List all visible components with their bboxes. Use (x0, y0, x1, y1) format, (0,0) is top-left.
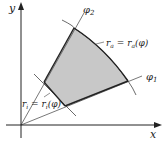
phi1-label: φ1 (146, 71, 157, 84)
y-axis-arrow (18, 2, 24, 10)
ri-leader (44, 93, 50, 97)
polar-region-diagram: y x φ2 φ1 ra = ra(φ) ri = ri(φ) (0, 0, 166, 153)
y-axis-label: y (8, 2, 16, 15)
ra-leader (96, 42, 104, 44)
ri-label: ri = ri(φ) (22, 99, 62, 110)
x-axis-label: x (150, 128, 157, 141)
ra-label: ra = ra(φ) (106, 38, 149, 49)
phi2-label: φ2 (83, 4, 95, 17)
